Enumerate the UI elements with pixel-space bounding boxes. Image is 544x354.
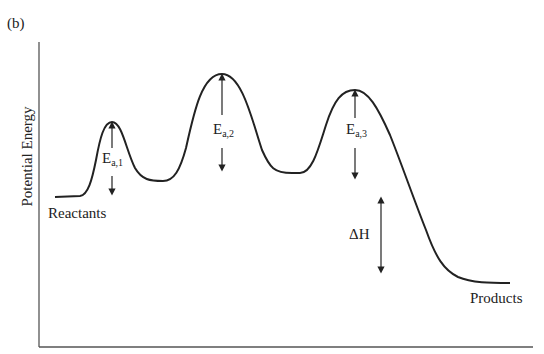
ea3-sub: a,3: [355, 128, 367, 139]
energy-diagram: [0, 0, 544, 354]
ea1-sub: a,1: [111, 157, 123, 168]
ea3-label: Ea,3: [346, 121, 367, 139]
ea1-main: E: [102, 150, 111, 166]
ea2-sub: a,2: [222, 128, 234, 139]
ea2-label: Ea,2: [213, 121, 234, 139]
energy-curve: [55, 74, 510, 283]
reactants-label: Reactants: [48, 205, 106, 222]
ea3-main: E: [346, 121, 355, 137]
ea2-main: E: [213, 121, 222, 137]
ea1-label: Ea,1: [102, 150, 123, 168]
products-label: Products: [470, 290, 523, 307]
y-axis-label: Potential Energy: [19, 97, 36, 217]
delta-h-label: ΔH: [349, 226, 369, 243]
